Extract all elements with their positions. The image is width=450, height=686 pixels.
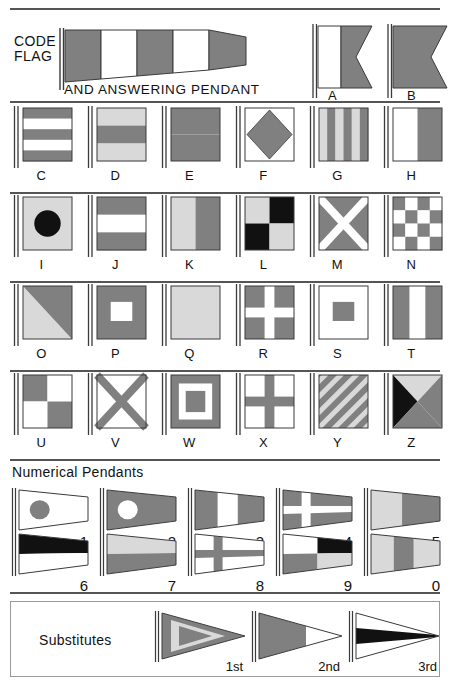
- flag-letter-A: A: [328, 88, 337, 103]
- substitutes-title: Substitutes: [39, 632, 112, 648]
- flag-letter-V: V: [78, 435, 153, 450]
- flag-cell-M[interactable]: M: [300, 193, 375, 281]
- flag-glyph-P: [86, 284, 148, 346]
- flag-glyph-R: [234, 284, 296, 346]
- pendant-cell-8[interactable]: 8: [182, 528, 272, 590]
- flag-glyph-H: [382, 106, 444, 168]
- flag-row-U-Z: U V W X Y Z: [0, 371, 450, 459]
- flag-glyph-M: [308, 195, 370, 257]
- pendant-glyph-2: [98, 488, 178, 532]
- pendant-glyph-1: [10, 488, 90, 532]
- flag-letter-O: O: [4, 346, 79, 361]
- flag-cell-S[interactable]: S: [300, 282, 375, 370]
- flag-row-O-T: O P Q R S T: [0, 282, 450, 370]
- flag-cell-G[interactable]: G: [300, 104, 375, 192]
- flag-cell-B[interactable]: B: [385, 24, 450, 90]
- flag-glyph-Q: [160, 284, 222, 346]
- flag-glyph-S: [308, 284, 370, 346]
- flag-glyph-Y: [308, 373, 370, 435]
- flag-cell-T[interactable]: T: [374, 282, 449, 370]
- substitute-glyph-1st: [153, 610, 249, 662]
- pendant-glyph-0: [362, 532, 442, 576]
- flag-letter-P: P: [78, 346, 153, 361]
- flag-letter-K: K: [152, 257, 227, 272]
- flag-letter-Y: Y: [300, 435, 375, 450]
- substitute-cell-1st[interactable]: 1st: [151, 608, 251, 672]
- flag-glyph-T: [382, 284, 444, 346]
- substitute-label-2nd: 2nd: [318, 659, 340, 674]
- pendant-cell-7[interactable]: 7: [94, 528, 184, 590]
- flag-glyph-J: [86, 195, 148, 257]
- flag-glyph-G: [308, 106, 370, 168]
- flag-letter-Q: Q: [152, 346, 227, 361]
- flag-cell-N[interactable]: N: [374, 193, 449, 281]
- flag-cell-W[interactable]: W: [152, 371, 227, 459]
- flag-cell-U[interactable]: U: [4, 371, 79, 459]
- flag-letter-H: H: [374, 168, 449, 183]
- flag-cell-C[interactable]: C: [4, 104, 79, 192]
- flag-row-I-N: I J K L M N: [0, 193, 450, 281]
- flag-letter-G: G: [300, 168, 375, 183]
- flag-cell-O[interactable]: O: [4, 282, 79, 370]
- flag-cell-L[interactable]: L: [226, 193, 301, 281]
- flag-letter-S: S: [300, 346, 375, 361]
- flag-glyph-N: [382, 195, 444, 257]
- substitute-label-1st: 1st: [226, 659, 243, 674]
- flag-cell-X[interactable]: X: [226, 371, 301, 459]
- flag-glyph-I: [12, 195, 74, 257]
- substitute-glyph-2nd: [250, 610, 346, 662]
- pendant-number-6: 6: [80, 577, 88, 594]
- flag-cell-R[interactable]: R: [226, 282, 301, 370]
- flag-glyph-L: [234, 195, 296, 257]
- flag-cell-K[interactable]: K: [152, 193, 227, 281]
- flag-letter-D: D: [78, 168, 153, 183]
- flag-letter-X: X: [226, 435, 301, 450]
- flag-glyph-W: [160, 373, 222, 435]
- flag-cell-P[interactable]: P: [78, 282, 153, 370]
- flag-cell-I[interactable]: I: [4, 193, 79, 281]
- pendant-cell-0[interactable]: 0: [358, 528, 448, 590]
- flag-cell-H[interactable]: H: [374, 104, 449, 192]
- flag-letter-T: T: [374, 346, 449, 361]
- pendant-number-7: 7: [168, 577, 176, 594]
- header-section: CODE FLAG AND ANSWERING PENDANT: [0, 6, 450, 104]
- flag-letter-C: C: [4, 168, 79, 183]
- flag-letter-U: U: [4, 435, 79, 450]
- substitute-cell-3rd[interactable]: 3rd: [345, 608, 445, 672]
- flag-cell-A[interactable]: A: [310, 24, 378, 90]
- flag-glyph-K: [160, 195, 222, 257]
- flag-cell-E[interactable]: E: [152, 104, 227, 192]
- pendant-cell-9[interactable]: 9: [270, 528, 360, 590]
- substitutes-box: Substitutes 1st 2nd 3rd: [10, 601, 440, 677]
- divider-row4: [10, 459, 440, 461]
- flag-cell-F[interactable]: F: [226, 104, 301, 192]
- pendant-glyph-3: [186, 488, 266, 532]
- substitute-cell-2nd[interactable]: 2nd: [248, 608, 348, 672]
- flag-letter-M: M: [300, 257, 375, 272]
- code-flag-label: CODE FLAG: [14, 34, 56, 64]
- code-flag-pendant: [58, 28, 253, 90]
- flag-cell-V[interactable]: V: [78, 371, 153, 459]
- pendant-glyph-7: [98, 532, 178, 576]
- pendant-number-0: 0: [432, 577, 440, 594]
- flag-letter-R: R: [226, 346, 301, 361]
- pendant-number-8: 8: [256, 577, 264, 594]
- flag-letter-J: J: [78, 257, 153, 272]
- substitute-glyph-3rd: [347, 610, 443, 662]
- flag-cell-Y[interactable]: Y: [300, 371, 375, 459]
- flag-cell-Q[interactable]: Q: [152, 282, 227, 370]
- flag-glyph-V: [86, 373, 148, 435]
- flag-cell-D[interactable]: D: [78, 104, 153, 192]
- flag-glyph-D: [86, 106, 148, 168]
- pendant-row-6-0: 6 7 8 9 0: [0, 528, 450, 590]
- pendant-number-9: 9: [344, 577, 352, 594]
- pendant-glyph-6: [10, 532, 90, 576]
- flag-cell-J[interactable]: J: [78, 193, 153, 281]
- flag-glyph-F: [234, 106, 296, 168]
- flag-glyph-O: [12, 284, 74, 346]
- flag-cell-Z[interactable]: Z: [374, 371, 449, 459]
- pendant-cell-6[interactable]: 6: [6, 528, 96, 590]
- signal-flag-chart: CODE FLAG AND ANSWERING PENDANT: [0, 0, 450, 686]
- numerical-pendants-title: Numerical Pendants: [12, 464, 143, 480]
- flag-glyph-C: [12, 106, 74, 168]
